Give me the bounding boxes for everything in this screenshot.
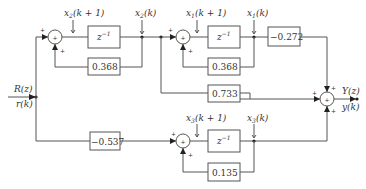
x2-loop: + + + x2(k + 1) z−1 x2(k) 0.368 [36,8,208,93]
output-node [355,97,358,100]
input-gain-x3-value: −0.537 [91,137,125,147]
sign-plus: + [312,89,317,96]
arrow-icon [324,106,330,112]
x3-loop: −0.537 + + + x3(k + 1) z−1 x3(k) 0.135 [36,106,330,181]
feedback-gain-x1-value: 0.368 [212,62,238,72]
output-label-yk: y(k) [341,102,360,112]
arrow-icon [314,96,320,102]
feedback-gain-x3-value: 0.135 [212,168,238,178]
input-label-rk: r(k) [16,99,33,109]
sign-plus: + [168,26,173,33]
arrow-icon [42,34,48,40]
sign-plus: + [171,130,176,137]
arrow-icon [170,138,176,144]
x1-loop: + + + x1(k + 1) z−1 x1(k) 0.368 −0.272 [168,8,330,92]
direct-path: 0.733 [208,85,320,102]
input-signal: R(z) r(k) [8,37,38,141]
x3-current-label: x3(k) [247,113,269,124]
arrow-icon [180,44,186,50]
x1-current-label: x1(k) [247,8,269,19]
x2-current-label: x2(k) [135,8,157,19]
sign-plus: + [188,47,193,54]
arrow-icon [180,148,186,154]
arrow-icon [52,44,58,50]
x1-next-label: x1(k + 1) [186,8,227,19]
arrow-icon [324,86,330,92]
x3-next-label: x3(k + 1) [186,113,227,124]
output-label-yz: Y(z) [342,86,360,96]
x2-next-label: x2(k + 1) [64,8,105,19]
block-diagram: R(z) r(k) + + + x2(k + 1) z−1 x2(k) 0.36… [0,0,366,189]
summer-symbol: + [181,34,186,41]
direct-gain-value: 0.733 [212,89,238,99]
summer-symbol: + [325,96,330,103]
sign-plus: + [331,84,336,91]
feedback-gain-x2-value: 0.368 [92,62,118,72]
output-gain-x1-value: −0.272 [270,32,303,42]
sign-plus: + [40,26,45,33]
summer-symbol: + [181,138,186,145]
arrow-icon [170,34,176,40]
sign-plus: + [60,47,65,54]
sign-plus: + [331,107,336,114]
sign-plus: + [188,151,193,158]
summer-symbol: + [53,34,58,41]
input-label-rz: R(z) [13,84,33,94]
